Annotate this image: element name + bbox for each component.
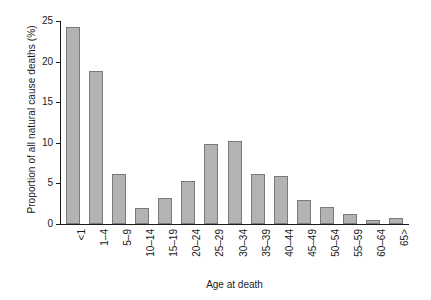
- bar: [297, 200, 311, 224]
- y-tick-label: 5: [13, 178, 53, 188]
- x-axis-line: [60, 224, 409, 225]
- bar: [228, 141, 242, 224]
- y-tick-mark: [56, 21, 60, 22]
- y-tick-label: 10: [13, 138, 53, 148]
- bar-chart-figure: Proportion of all natural cause deaths (…: [0, 0, 431, 300]
- bar: [274, 176, 288, 224]
- bar: [389, 218, 403, 224]
- y-tick-label: 15: [13, 97, 53, 107]
- bar: [204, 144, 218, 224]
- y-tick-mark: [56, 183, 60, 184]
- bar: [251, 174, 265, 224]
- x-axis-title: Age at death: [61, 279, 408, 290]
- bar: [112, 174, 126, 224]
- y-tick-mark: [56, 143, 60, 144]
- y-axis-line: [60, 21, 61, 225]
- y-axis-title: Proportion of all natural cause deaths (…: [26, 10, 37, 230]
- bar: [343, 214, 357, 224]
- bar: [158, 198, 172, 224]
- bar: [320, 207, 334, 224]
- y-tick-mark: [56, 62, 60, 63]
- y-tick-label: 0: [13, 219, 53, 229]
- bar: [89, 71, 103, 224]
- bar: [135, 208, 149, 224]
- bar: [181, 181, 195, 224]
- y-tick-mark: [56, 102, 60, 103]
- bar: [366, 220, 380, 224]
- y-tick-label: 20: [13, 57, 53, 67]
- y-tick-label: 25: [13, 16, 53, 26]
- y-tick-mark: [56, 224, 60, 225]
- bar: [66, 27, 80, 224]
